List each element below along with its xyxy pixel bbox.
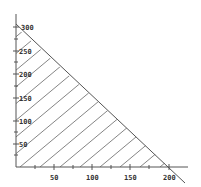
boundary-line — [16, 24, 185, 183]
svg-text:150: 150 — [19, 95, 32, 103]
chart: 50 100 150 200 250 300 50 100 150 200 — [0, 0, 201, 187]
svg-text:300: 300 — [21, 24, 34, 32]
x-tick-labels: 50 100 150 200 — [50, 174, 176, 182]
svg-text:100: 100 — [19, 118, 32, 126]
y-tick-labels: 50 100 150 200 250 300 — [19, 24, 34, 149]
axes — [13, 14, 188, 170]
svg-text:200: 200 — [19, 71, 32, 79]
svg-text:150: 150 — [124, 174, 137, 182]
svg-text:50: 50 — [19, 141, 27, 149]
svg-text:200: 200 — [163, 174, 176, 182]
svg-text:100: 100 — [86, 174, 99, 182]
svg-text:250: 250 — [19, 48, 32, 56]
svg-text:50: 50 — [50, 174, 58, 182]
